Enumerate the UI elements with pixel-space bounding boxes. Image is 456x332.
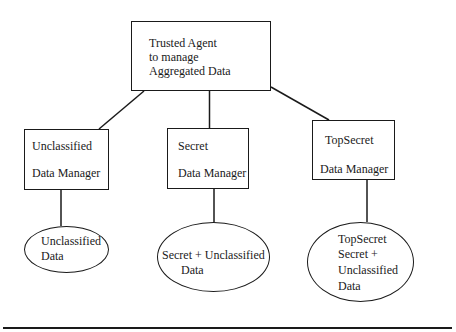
- secret-data-line-1: Secret + Unclassified: [162, 248, 265, 263]
- bottom-rule-divider: [3, 327, 452, 329]
- unclassified-data-line-2: Data: [41, 249, 64, 264]
- secret-data-line-2: Data: [181, 263, 204, 278]
- unclassified-manager-line-2: Data Manager: [32, 166, 100, 180]
- topsecret-secret-unclassified-data-ellipse: TopSecret Secret + Unclassified Data: [307, 222, 414, 302]
- topsecret-data-line-1: TopSecret: [338, 232, 386, 247]
- topsecret-data-line-3: Unclassified: [338, 263, 398, 278]
- root-label-line-1: Trusted Agent: [149, 36, 217, 50]
- trusted-agent-box: Trusted Agent to manage Aggregated Data: [131, 21, 271, 91]
- unclassified-data-ellipse: Unclassified Data: [24, 226, 109, 273]
- topsecret-data-line-4: Data: [338, 279, 361, 294]
- unclassified-data-manager-box: Unclassified Data Manager: [24, 129, 109, 190]
- edge-root-to-unclassified-manager: [99, 91, 144, 129]
- topsecret-manager-line-2: Data Manager: [320, 162, 388, 176]
- topsecret-manager-line-1: TopSecret: [325, 133, 373, 147]
- topsecret-data-manager-box: TopSecret Data Manager: [312, 120, 395, 180]
- unclassified-manager-line-1: Unclassified: [32, 139, 92, 153]
- secret-manager-line-1: Secret: [178, 139, 208, 153]
- root-label-line-2: to manage: [149, 50, 199, 64]
- topsecret-data-line-2: Secret +: [338, 247, 378, 262]
- secret-manager-line-2: Data Manager: [178, 166, 246, 180]
- secret-data-manager-box: Secret Data Manager: [167, 128, 249, 189]
- root-label-line-3: Aggregated Data: [149, 64, 231, 78]
- secret-unclassified-data-ellipse: Secret + Unclassified Data: [157, 222, 270, 292]
- edge-root-to-topsecret-manager: [271, 87, 329, 120]
- unclassified-data-line-1: Unclassified: [41, 234, 101, 249]
